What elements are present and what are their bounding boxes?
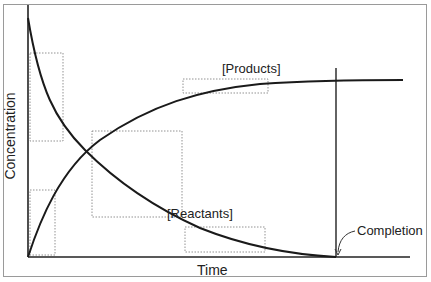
chart-plot <box>0 0 431 282</box>
y-axis-label: Concentration <box>2 86 18 186</box>
reactants-label: [Reactants] <box>167 206 233 221</box>
rate-triangles <box>30 53 268 255</box>
completion-label: Completion <box>357 223 423 238</box>
x-axis-label: Time <box>197 262 228 278</box>
products-label: [Products] <box>222 61 281 76</box>
products-curve <box>28 80 403 257</box>
